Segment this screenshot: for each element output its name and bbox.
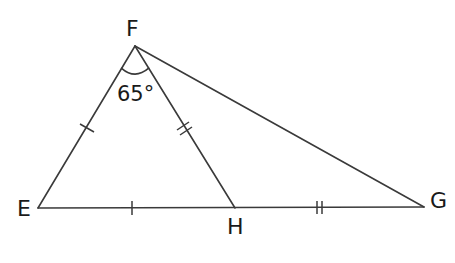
vertex-label-h: H — [227, 214, 244, 239]
segment-eg — [38, 207, 424, 208]
vertex-label-g: G — [430, 188, 447, 213]
segment-fg — [135, 46, 424, 207]
triangle-diagram: F E H G 65° — [0, 0, 455, 263]
segment-fh — [135, 46, 235, 208]
angle-label-f: 65° — [117, 82, 154, 106]
vertex-label-f: F — [126, 16, 139, 41]
angle-arc-f — [122, 68, 149, 74]
vertex-label-e: E — [17, 196, 31, 221]
